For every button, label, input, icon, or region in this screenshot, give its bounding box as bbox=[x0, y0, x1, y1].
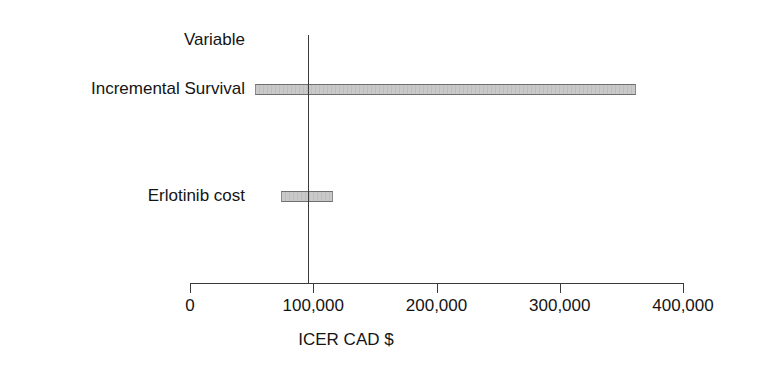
x-axis-tick-label-300000: 300,000 bbox=[500, 296, 620, 316]
x-axis-tick bbox=[437, 283, 438, 293]
x-axis-tick bbox=[313, 283, 314, 293]
row-label-erlotinib-cost: Erlotinib cost bbox=[0, 186, 245, 206]
tornado-bar-incremental-survival bbox=[255, 84, 636, 95]
x-axis-tick-label-100000: 100,000 bbox=[253, 296, 373, 316]
row-label-incremental-survival: Incremental Survival bbox=[0, 79, 245, 99]
variable-column-header: Variable bbox=[0, 30, 245, 50]
x-axis-title: ICER CAD $ bbox=[246, 330, 446, 350]
x-axis-tick-label-0: 0 bbox=[130, 296, 250, 316]
x-axis-tick bbox=[683, 283, 684, 293]
tornado-chart: Variable Incremental Survival Erlotinib … bbox=[0, 0, 760, 376]
tornado-bar-erlotinib-cost bbox=[281, 191, 333, 202]
x-axis-tick-label-200000: 200,000 bbox=[377, 296, 497, 316]
x-axis-tick-label-400000: 400,000 bbox=[623, 296, 743, 316]
baseline-reference-line bbox=[308, 35, 309, 284]
x-axis-tick bbox=[560, 283, 561, 293]
x-axis-tick bbox=[190, 283, 191, 293]
